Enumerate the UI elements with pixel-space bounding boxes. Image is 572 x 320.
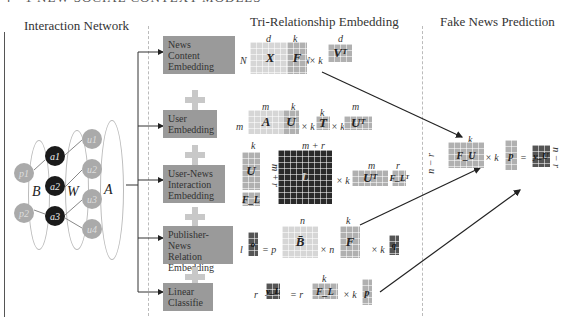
component-linear-classifier: Linear Classifie [163, 283, 213, 311]
matrix-VT: Vᵀ [328, 44, 352, 62]
matrix-T: T [316, 116, 330, 130]
operator: = [520, 152, 527, 163]
matrix-UT: Uᵀ [352, 170, 388, 186]
box-line: User [168, 113, 212, 124]
box-line: Embedding [168, 124, 212, 135]
matrix-A: A [248, 110, 284, 134]
box-line: Embedding [168, 61, 230, 72]
matrix-B-bar: B̄ [282, 226, 318, 258]
operator: = p [262, 244, 276, 255]
vector-q: q [389, 235, 399, 255]
dim-label: n − r [425, 153, 436, 174]
operator: × k [371, 244, 385, 255]
box-line: Classifie [168, 297, 208, 308]
operator: × k [485, 152, 499, 163]
vector-o: o [248, 232, 258, 256]
plus-icon [185, 145, 205, 165]
dim-label: l [240, 244, 243, 255]
matrix-U: U [242, 152, 260, 190]
component-news-content-embedding: News Content Embedding [163, 36, 235, 74]
matrix-FL: F_L [312, 283, 338, 299]
dim-label: m [236, 121, 243, 132]
operator: × k [309, 55, 323, 66]
operator: × k [301, 121, 315, 132]
box-line: Publisher-News [168, 229, 228, 251]
box-line: Interaction [168, 179, 220, 190]
dim-label: d [338, 33, 343, 44]
matrix-FL: F_L [242, 192, 260, 206]
operator: × n [320, 244, 334, 255]
dim-label: r [254, 289, 258, 300]
matrix-UT: Uᵀ [344, 116, 372, 130]
dim-label: N [240, 55, 247, 66]
dim-label: m [352, 101, 359, 112]
box-line: Embedding [168, 190, 220, 201]
matrix-U: U [283, 110, 299, 134]
box-line: Relation [168, 251, 228, 262]
operator: × k [343, 289, 357, 300]
matrix-FLT: F_Lᵀ [392, 170, 406, 186]
component-user-embedding: User Embedding [163, 110, 217, 138]
operator: × k [336, 175, 350, 186]
vector-yL: y_L [266, 283, 280, 299]
dim-label: k [346, 215, 350, 226]
box-line: Linear [168, 286, 208, 297]
matrix-F: F [287, 42, 307, 74]
plus-icon [185, 90, 205, 110]
dim-label: k [251, 140, 255, 151]
operator: × k [331, 121, 345, 132]
matrix-X: X [250, 42, 290, 74]
matrix-F: F [340, 226, 360, 258]
box-line: User-News [168, 168, 220, 179]
operator: = r [290, 289, 303, 300]
vector-yU: y_U [532, 145, 550, 167]
vector-p: p [362, 279, 372, 305]
box-line: Content [168, 50, 230, 61]
dim-label: n [300, 215, 305, 226]
dim-label: n − r [551, 147, 562, 168]
component-publisher-news-relation: Publisher-News Relation Embedding [163, 226, 233, 264]
vector-p: p [505, 140, 517, 170]
matrix-L: L [278, 150, 332, 204]
matrix-FU: F_U [448, 142, 484, 168]
box-line: News [168, 39, 230, 50]
component-user-news-interaction: User-News Interaction Embedding [163, 165, 225, 203]
plus-icon [185, 207, 205, 227]
